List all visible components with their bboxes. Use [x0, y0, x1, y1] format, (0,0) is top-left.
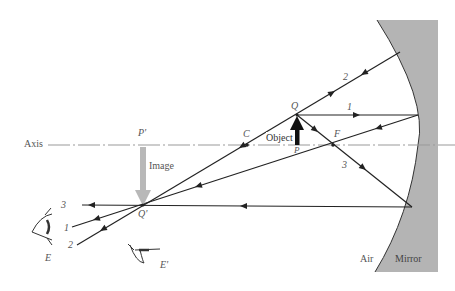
ray-2-label-top: 2 — [343, 71, 348, 82]
image-label: Image — [149, 160, 174, 171]
ray-2-label-left: 2 — [68, 239, 73, 250]
axis-label: Axis — [24, 138, 43, 149]
ray-1-label-left: 1 — [64, 222, 69, 233]
label-Q-prime: Q' — [138, 208, 147, 219]
label-F: F — [334, 128, 340, 139]
ray-1-label-top: 1 — [347, 101, 352, 112]
ray-3-label-right: 3 — [342, 159, 347, 170]
object-label: Object — [266, 132, 293, 143]
label-P: P — [294, 145, 300, 155]
observer-E-prime-label: E' — [160, 259, 168, 270]
label-C: C — [243, 128, 250, 139]
label-P-prime: P' — [138, 127, 146, 138]
air-label: Air — [360, 253, 373, 264]
mirror-label: Mirror — [395, 253, 422, 264]
ray-3-label-left: 3 — [61, 199, 66, 210]
label-Q: Q — [291, 100, 298, 111]
observer-E-label: E — [45, 252, 51, 263]
